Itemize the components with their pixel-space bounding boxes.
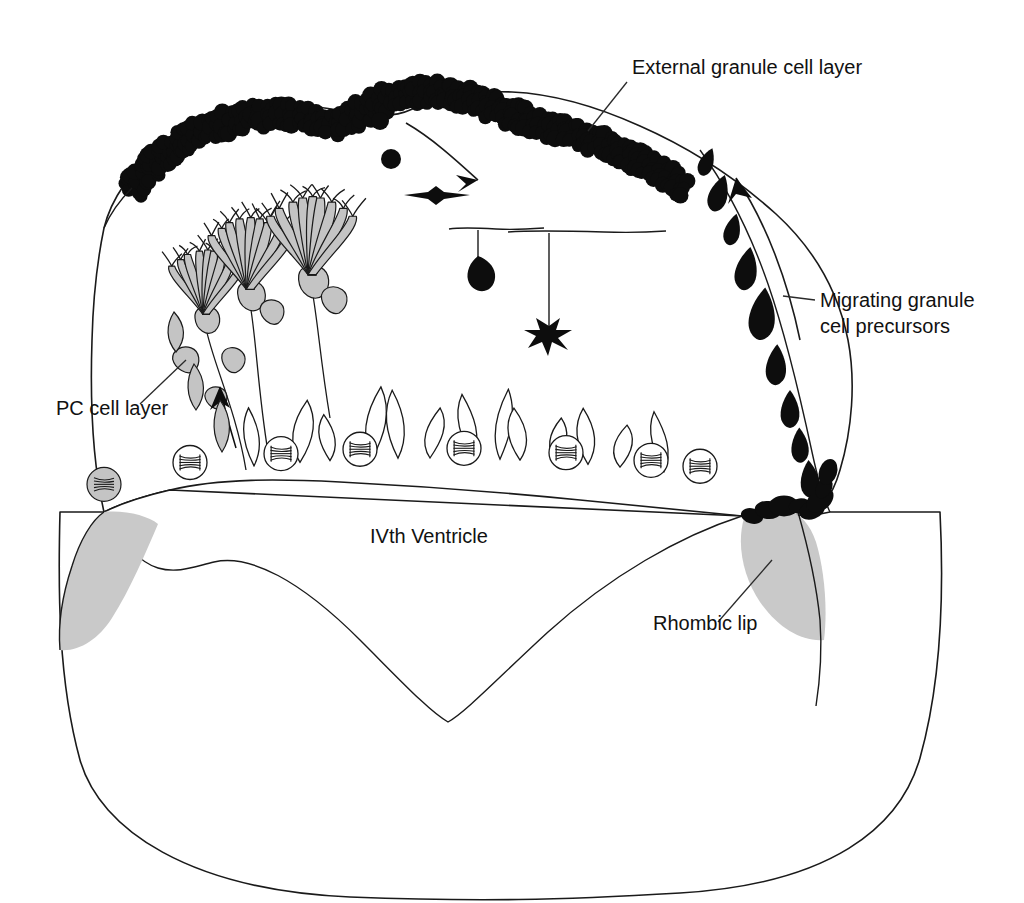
egl-granule-cell xyxy=(318,125,332,139)
label-rhombic-lip: Rhombic lip xyxy=(653,612,757,634)
label-ivth-ventricle: IVth Ventricle xyxy=(370,525,488,547)
mitotic-figure xyxy=(549,436,583,470)
cerebellum-development-diagram: External granule cell layer Migrating gr… xyxy=(0,0,1024,903)
round-granule-precursor-stage-1 xyxy=(371,112,389,130)
mitotic-figure xyxy=(683,449,717,483)
label-external-granule-cell-layer: External granule cell layer xyxy=(632,56,862,78)
mitotic-figure xyxy=(447,431,481,465)
label-pc-cell-layer: PC cell layer xyxy=(56,397,169,419)
mitotic-figure xyxy=(264,437,298,471)
label-migrating-granule-cell-precursors-line1: Migrating granule xyxy=(820,289,975,311)
diagram-root: External granule cell layer Migrating gr… xyxy=(0,0,1024,903)
mitotic-figure-gray xyxy=(87,467,121,501)
mitotic-figure xyxy=(173,445,207,479)
round-granule-precursor-stage-2 xyxy=(381,149,401,169)
egl-granule-cell xyxy=(672,187,688,203)
label-migrating-granule-cell-precursors-line2: cell precursors xyxy=(820,315,950,337)
mitotic-figure xyxy=(343,432,377,466)
mitotic-figure xyxy=(634,443,668,477)
